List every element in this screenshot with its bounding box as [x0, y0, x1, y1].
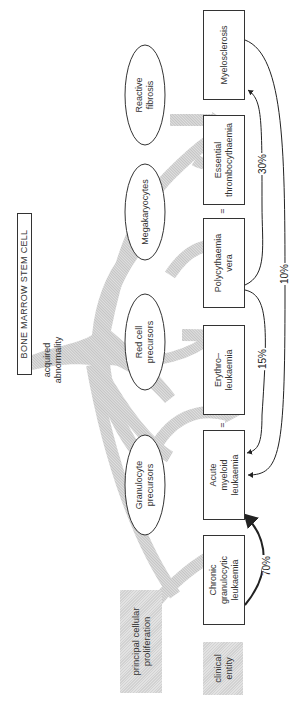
proliferation-label: Red cell — [134, 326, 145, 359]
diagram-canvas: BONE MARROW STEM CELL acquired abnormali… — [0, 0, 298, 715]
proliferation-label: Megakaryocytes — [140, 179, 151, 245]
entity-polycythaemia-vera: Polycythaemia vera — [203, 218, 245, 308]
proliferation-granulocyte: Granulocyte precursors — [130, 445, 160, 525]
entity-label: leukaemia — [230, 559, 241, 600]
entity-label: Chronic — [208, 565, 219, 596]
entity-myelosclerosis: Myelosclerosis — [203, 10, 245, 100]
entity-label: Polycythaemia — [213, 234, 224, 293]
entity-label: thrombocythaemia — [224, 123, 235, 197]
entity-label: Acute — [208, 464, 219, 487]
entity-label: vera — [224, 254, 235, 272]
acquired-abnormality-label: acquired abnormality — [40, 320, 66, 400]
curve-10 — [245, 40, 285, 475]
entity-erythroleukaemia: Erythro– leukaemia — [203, 325, 245, 415]
entity-label: myeloid — [219, 460, 230, 491]
proliferation-label: fibrosis — [145, 81, 156, 110]
entity-label: leukaemia — [224, 349, 235, 390]
transition-label-30: 30% — [258, 153, 268, 175]
proliferation-red-cell: Red cell precursors — [130, 302, 160, 382]
transition-label-70: 70% — [262, 555, 272, 577]
proliferation-label: precursors — [145, 321, 156, 364]
entity-label: Myelosclerosis — [219, 26, 230, 85]
proliferation-reactive-fibrosis: Reactive fibrosis — [130, 55, 160, 135]
stem-cell-label: BONE MARROW STEM CELL — [17, 213, 32, 375]
proliferation-label: precursors — [145, 464, 156, 507]
proliferation-megakaryocytes: Megakaryocytes — [130, 167, 160, 257]
proliferation-label: Granulocyte — [134, 461, 145, 510]
entity-label: leukaemia — [230, 454, 241, 495]
row-label-proliferation: principal cellular proliferation — [120, 590, 162, 693]
equals-sign: = — [215, 418, 229, 432]
entity-label: granulocytic — [219, 556, 230, 604]
entity-acute-myeloid-leukaemia: Acute myeloid leukaemia — [203, 430, 245, 520]
proliferation-label: Reactive — [134, 78, 145, 113]
entity-chronic-granulocytic-leukaemia: Chronic granulocytic leukaemia — [203, 535, 245, 625]
transition-label-15: 15% — [258, 348, 268, 370]
entity-label: Essential — [213, 142, 224, 179]
transition-label-10: 10% — [280, 263, 290, 285]
entity-label: Erythro– — [213, 353, 224, 387]
entity-essential-thrombocythaemia: Essential thrombocythaemia — [203, 115, 245, 205]
curve-30 — [245, 90, 263, 285]
row-label-clinical: clinical entity — [203, 642, 243, 695]
curve-15 — [245, 290, 265, 453]
acquired-abnormality-text: acquired abnormality — [42, 330, 64, 390]
equals-sign: = — [215, 204, 229, 218]
